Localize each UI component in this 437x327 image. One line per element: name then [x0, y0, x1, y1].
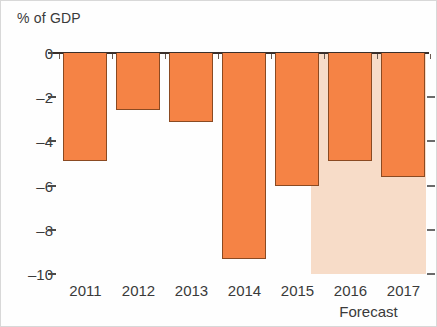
axis-tick	[430, 54, 431, 59]
x-axis: 2011201220132014201520162017	[58, 282, 426, 304]
axis-tick	[59, 54, 60, 59]
axis-tick	[218, 54, 219, 59]
y-tick-dash-right	[427, 273, 435, 275]
bar-chart: % of GDP 0–2–4–6–8–10 201120122013201420…	[0, 0, 437, 327]
y-tick-dash	[48, 273, 56, 275]
x-tick-label-2013: 2013	[165, 282, 218, 299]
bar-2017	[381, 53, 425, 177]
x-tick-label-2014: 2014	[218, 282, 271, 299]
y-tick-dash-right	[427, 96, 435, 98]
x-tick-label-2011: 2011	[59, 282, 112, 299]
y-tick-dash	[48, 229, 56, 231]
axis-tick	[112, 54, 113, 59]
plot-area	[58, 53, 426, 274]
y-tick-dash-right	[427, 185, 435, 187]
bar-2012	[116, 53, 160, 110]
y-tick-dash-right	[427, 140, 435, 142]
bar-2013	[169, 53, 213, 122]
y-axis: 0–2–4–6–8–10	[1, 53, 53, 274]
x-tick-label-2016: 2016	[324, 282, 377, 299]
bar-2011	[63, 53, 107, 161]
bar-2016	[328, 53, 372, 161]
axis-tick	[271, 54, 272, 59]
y-tick-dash	[48, 96, 56, 98]
y-axis-title: % of GDP	[17, 10, 81, 26]
axis-tick	[324, 54, 325, 59]
y-tick-dash	[48, 185, 56, 187]
axis-tick	[377, 54, 378, 59]
bar-2014	[222, 53, 266, 259]
bar-2015	[275, 53, 319, 186]
x-tick-label-2017: 2017	[377, 282, 430, 299]
y-tick-dash	[48, 140, 56, 142]
x-tick-label-2015: 2015	[271, 282, 324, 299]
x-tick-label-2012: 2012	[112, 282, 165, 299]
axis-tick	[165, 54, 166, 59]
y-tick-dash-right	[427, 229, 435, 231]
forecast-caption: Forecast	[311, 303, 426, 320]
